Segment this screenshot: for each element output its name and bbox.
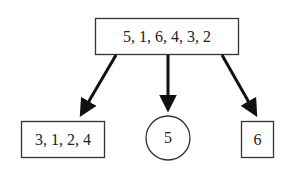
arrow-left	[82, 55, 116, 113]
pivot-node-label: 5	[146, 116, 190, 160]
root-node-label: 5, 1, 6, 4, 3, 2	[95, 18, 239, 55]
left-node-label: 3, 1, 2, 4	[21, 121, 105, 158]
arrow-right	[222, 55, 255, 113]
right-node-label: 6	[241, 121, 274, 158]
